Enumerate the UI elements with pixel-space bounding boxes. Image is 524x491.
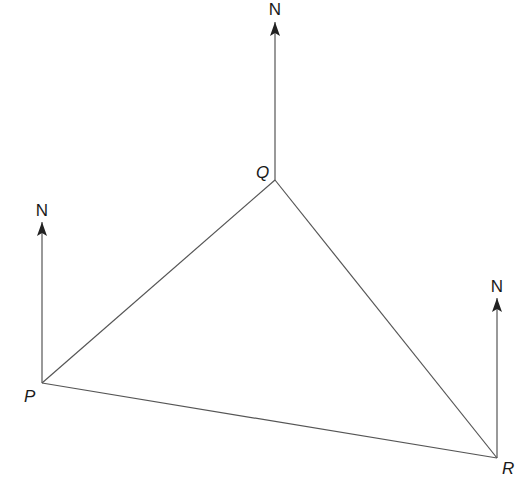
north-label-p: N [36,201,48,220]
point-label-q: Q [256,163,269,182]
north-label-q: N [269,0,281,19]
north-arrow-q: N [269,0,281,180]
bearing-diagram: N N N Q P R [0,0,524,491]
side-pr [42,383,497,458]
north-arrow-p: N [36,201,48,383]
point-label-p: P [24,387,36,406]
north-arrow-r: N [491,277,503,458]
point-label-r: R [502,459,514,478]
side-pq [42,180,275,383]
side-qr [275,180,497,458]
north-label-r: N [491,277,503,296]
